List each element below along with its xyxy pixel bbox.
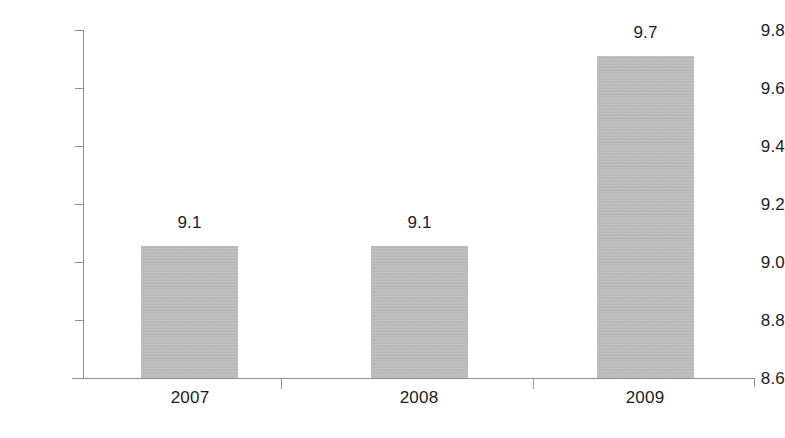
y-axis-tick-9.8 (75, 30, 84, 31)
y-axis-label-0: 9.8 (723, 21, 785, 41)
x-axis-tick-separator-2 (533, 379, 534, 389)
y-axis-tick-9.4 (75, 146, 84, 147)
data-label-2008: 9.1 (370, 213, 469, 233)
y-axis-tick-9.2 (75, 204, 84, 205)
bar-2007 (141, 246, 238, 378)
x-axis-label-2008: 2008 (363, 388, 475, 408)
y-axis-label-5: 8.8 (723, 311, 785, 331)
data-label-2007: 9.1 (140, 213, 239, 233)
x-axis-tick-separator-1 (281, 379, 282, 389)
bar-chart: 9.8 9.6 9.4 9.2 9.0 8.8 8.6 9.1 9.1 9.7 … (0, 0, 785, 438)
y-axis-tick-9.0 (75, 262, 84, 263)
bar-2009 (597, 56, 694, 378)
y-axis-label-4: 9.0 (723, 253, 785, 273)
y-axis-tick-8.8 (75, 320, 84, 321)
y-axis-label-2: 9.4 (723, 137, 785, 157)
x-axis-end-tick (754, 378, 755, 387)
y-axis-label-3: 9.2 (723, 195, 785, 215)
y-axis-tick-9.6 (75, 88, 84, 89)
x-axis-label-2007: 2007 (134, 388, 246, 408)
bar-2008 (371, 246, 468, 378)
y-axis-label-1: 9.6 (723, 79, 785, 99)
x-axis-line (83, 378, 755, 379)
x-axis-label-2009: 2009 (589, 388, 701, 408)
data-label-2009: 9.7 (596, 23, 695, 43)
